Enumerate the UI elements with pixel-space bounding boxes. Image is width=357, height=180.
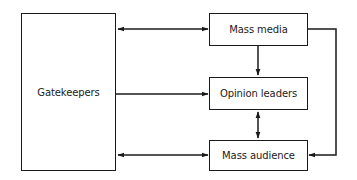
node-label-mass-media: Mass media: [229, 24, 288, 35]
diagram-canvas: Gatekeepers Mass media Opinion leaders M…: [0, 0, 357, 180]
node-mass-audience: Mass audience: [209, 140, 308, 171]
node-label-gatekeepers: Gatekeepers: [37, 87, 99, 98]
edge-mass-media-mass-audience: [307, 29, 336, 155]
node-gatekeepers: Gatekeepers: [21, 13, 116, 171]
node-label-opinion-leaders: Opinion leaders: [220, 88, 297, 99]
node-opinion-leaders: Opinion leaders: [209, 77, 308, 110]
node-mass-media: Mass media: [209, 13, 308, 46]
node-label-mass-audience: Mass audience: [222, 150, 295, 161]
